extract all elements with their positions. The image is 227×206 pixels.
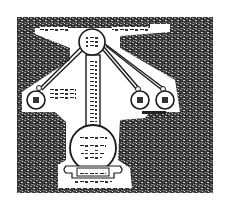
scroll-label-text xyxy=(80,171,106,174)
right-circle-2-glyph xyxy=(162,97,168,103)
left-circle-glyph xyxy=(33,97,39,103)
bottom-circle-text-2 xyxy=(80,143,106,147)
bottom-circle-text-4 xyxy=(84,157,102,161)
top-circle-glyph xyxy=(86,36,98,47)
left-annotation-text xyxy=(50,87,76,101)
bottom-circle xyxy=(70,125,116,171)
header-text-left xyxy=(40,27,68,31)
bottom-circle-text-3 xyxy=(81,150,105,154)
column-text xyxy=(89,60,97,122)
right-caption-text xyxy=(142,111,166,114)
diagram-svg xyxy=(17,17,213,193)
right-circle-1-glyph xyxy=(137,97,143,103)
bottom-circle-text-1 xyxy=(79,136,107,140)
diagram-frame xyxy=(17,17,213,193)
header-text-right xyxy=(112,27,148,31)
left-pendant-ring xyxy=(37,86,42,91)
scroll-caption-text xyxy=(74,181,112,184)
